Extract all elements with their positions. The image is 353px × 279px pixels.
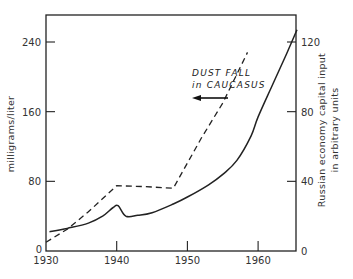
axis-ticks (46, 42, 296, 251)
y2-tick-label: 80 (301, 107, 314, 118)
y2-tick-label: 40 (301, 176, 314, 187)
y2-axis-title-line1: Russian economy capital input (316, 53, 327, 207)
y2-axis-title-line2: in arbitrary units (329, 88, 340, 173)
y-tick-label: 240 (22, 37, 41, 48)
chart: 193019401950196008016024004080120 millig… (0, 0, 353, 279)
x-tick-label: 1950 (175, 255, 200, 266)
y-tick-label: 160 (22, 107, 41, 118)
annotation-caucasus: in CAUCASUS (192, 80, 266, 90)
y-axis-title: milligrams/liter (5, 96, 16, 173)
plot-frame (46, 15, 296, 251)
x-tick-label: 1940 (104, 255, 129, 266)
y-tick-label: 0 (36, 244, 42, 255)
axis-tick-labels: 193019401950196008016024004080120 (22, 37, 320, 266)
y-tick-label: 80 (28, 176, 41, 187)
x-tick-label: 1930 (33, 255, 58, 266)
y2-tick-label: 120 (301, 37, 320, 48)
y2-tick-label: 0 (301, 246, 307, 257)
capital-input-line (50, 30, 298, 232)
x-tick-label: 1960 (245, 255, 270, 266)
arrow-left-icon (192, 95, 228, 101)
annotation-dust-fall: DUST FALL (192, 68, 251, 78)
